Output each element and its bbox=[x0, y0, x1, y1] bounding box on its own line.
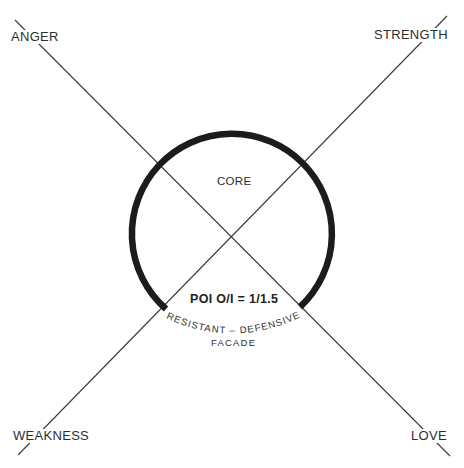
weakness-label: WEAKNESS bbox=[12, 429, 90, 443]
poi-ratio-label: POI O/I = 1/1.5 bbox=[189, 292, 279, 306]
core-label: CORE bbox=[216, 174, 252, 188]
love-label: LOVE bbox=[410, 429, 448, 443]
strength-label: STRENGTH bbox=[373, 28, 449, 42]
core-ring bbox=[132, 134, 332, 309]
anger-label: ANGER bbox=[10, 30, 60, 44]
facade-label: FACADE bbox=[210, 336, 257, 350]
diagram-graphics: RESISTANT – DEFENSIVE bbox=[0, 0, 464, 468]
resistant-defensive-label: RESISTANT – DEFENSIVE bbox=[165, 309, 302, 336]
emotion-axis-diagram: RESISTANT – DEFENSIVE ANGER STRENGTH WEA… bbox=[0, 0, 464, 468]
